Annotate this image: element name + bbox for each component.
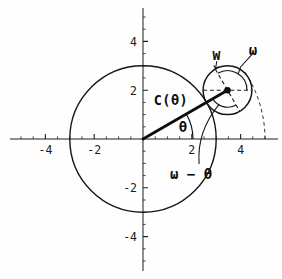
y-tick-label-4: 4: [130, 35, 137, 49]
x-tick-label-2: 2: [188, 143, 195, 157]
label-w: W: [213, 48, 221, 63]
figure-canvas: -4 -2 2 4 4 2 -2 -4 C(θ) θ ω − θ W ω: [0, 0, 282, 279]
label-omega-minus-theta: ω − θ: [170, 166, 212, 182]
x-tick-label-4: 4: [237, 143, 244, 157]
y-tick-label-2: 2: [130, 84, 137, 98]
omega-angle-arc: [218, 71, 247, 91]
label-theta: θ: [179, 119, 187, 135]
wheel-center-point: [224, 87, 231, 94]
figure-page: -4 -2 2 4 4 2 -2 -4 C(θ) θ ω − θ W ω: [0, 0, 282, 279]
label-omega: ω: [249, 42, 257, 58]
y-tick-label-neg2: -2: [123, 181, 137, 195]
x-tick-label-neg4: -4: [38, 143, 52, 157]
label-c-theta: C(θ): [154, 92, 189, 108]
w-leader-arrow: [214, 62, 219, 69]
y-tick-label-neg4: -4: [123, 230, 137, 244]
x-tick-label-neg2: -2: [87, 143, 101, 157]
